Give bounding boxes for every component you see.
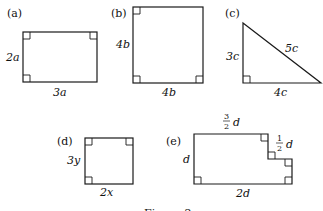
figure-caption: Figure 2 [144, 207, 192, 211]
shape-b-side-label: 4b [115, 38, 130, 51]
svg-text:3: 3 [224, 112, 229, 121]
shape-d-tag: (d) [57, 135, 73, 148]
shape-a-side-label: 2a [5, 51, 20, 64]
svg-text:2: 2 [224, 122, 229, 131]
svg-text:d: d [233, 116, 240, 129]
shape-a-rectangle [23, 32, 97, 82]
svg-text:d: d [286, 138, 293, 151]
shape-e-bottom-label: 2d [235, 187, 250, 200]
shape-a-bottom-label: 3a [53, 86, 67, 99]
shape-c-right-angle-mark [243, 76, 250, 83]
shape-c-bottom-label: 4c [273, 86, 287, 99]
shape-b-right-angle-marks [133, 7, 203, 83]
shape-e-top-label: 3 2 d [223, 112, 240, 131]
shape-c-hypotenuse-label: 5c [285, 42, 298, 55]
svg-text:1: 1 [277, 134, 282, 143]
shape-b-tag: (b) [111, 7, 127, 20]
shape-d-right-angle-marks [85, 138, 133, 184]
shape-b-square [133, 7, 203, 83]
shape-c-side-label: 3c [226, 50, 239, 63]
shape-d-side-label: 3y [67, 154, 81, 167]
shape-b-bottom-label: 4b [161, 86, 176, 99]
geometry-figure: (a) 2a 3a (b) 4b 4b (c) 3c 5c 4c (d) 3y … [0, 0, 323, 211]
shape-d-bottom-label: 2x [99, 186, 114, 199]
shape-c-tag: (c) [225, 7, 240, 20]
shape-a-tag: (a) [7, 7, 22, 20]
shape-c-triangle [243, 23, 321, 83]
shape-e-side-label: d [183, 153, 190, 166]
svg-text:2: 2 [277, 144, 282, 153]
shape-e-tag: (e) [166, 135, 181, 148]
shape-a-right-angle-marks [23, 32, 97, 82]
shape-e-step-label: 1 2 d [276, 134, 293, 153]
